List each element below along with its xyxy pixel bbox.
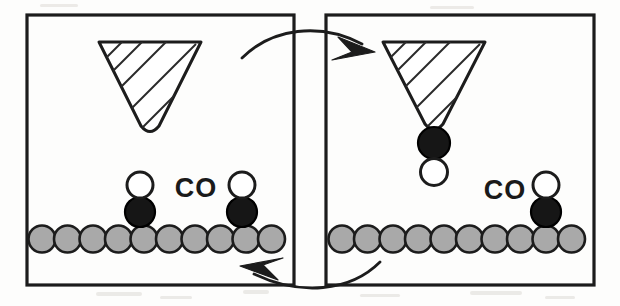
substrate-atom	[105, 226, 132, 253]
panel-left-tip	[92, 24, 212, 166]
substrate-atom	[405, 226, 432, 253]
substrate-atom	[431, 226, 458, 253]
co-molecule-adsorbed-right-panel	[531, 172, 561, 227]
oxygen-atom	[533, 172, 559, 198]
oxygen-atom	[421, 159, 448, 186]
co-label-left: CO	[175, 173, 218, 203]
substrate-atom	[558, 226, 585, 253]
substrate-atom	[482, 226, 509, 253]
substrate-atom	[29, 226, 56, 253]
substrate-atom	[182, 226, 209, 253]
panel-right-substrate	[329, 226, 586, 253]
substrate-atom	[80, 226, 107, 253]
substrate-atom	[456, 226, 483, 253]
co-label-right: CO	[484, 175, 527, 205]
figure-root: CO	[0, 0, 620, 306]
substrate-atom	[329, 226, 356, 253]
arrow-curve	[242, 31, 362, 58]
oxygen-atom	[127, 172, 153, 198]
panel-left-substrate	[29, 226, 286, 253]
panel-right: CO	[326, 15, 594, 285]
schematic-canvas: CO	[0, 0, 620, 306]
flow-arrow-pickup-forward	[242, 31, 375, 60]
substrate-atom	[233, 226, 260, 253]
co-molecule-on-tip	[418, 127, 450, 186]
substrate-atom	[207, 226, 234, 253]
substrate-atom	[507, 226, 534, 253]
co-molecule-adsorbed-left	[125, 172, 155, 227]
substrate-atom	[131, 226, 158, 253]
substrate-atom	[354, 226, 381, 253]
panel-left: CO	[27, 15, 294, 285]
substrate-atom	[258, 226, 285, 253]
substrate-atom	[54, 226, 81, 253]
carbon-atom	[418, 127, 450, 159]
substrate-atom	[380, 226, 407, 253]
substrate-atom	[156, 226, 183, 253]
oxygen-atom	[229, 172, 255, 198]
co-molecule-adsorbed-right	[227, 172, 257, 227]
substrate-atom	[533, 226, 560, 253]
carbon-atom	[531, 197, 561, 227]
carbon-atom	[227, 197, 257, 227]
carbon-atom	[125, 197, 155, 227]
